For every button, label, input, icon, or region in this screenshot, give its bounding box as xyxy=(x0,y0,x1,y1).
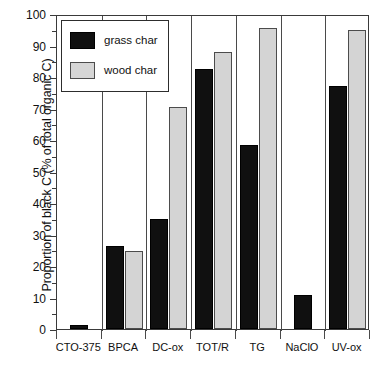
legend-swatch-grass-char xyxy=(70,32,95,49)
y-tick-label-40: 40 xyxy=(6,198,46,210)
legend-label-wood-char: wood char xyxy=(104,64,157,77)
y-tick-label-50: 50 xyxy=(6,167,46,179)
bar-chart-figure: Proportion of black C (% of total organi… xyxy=(0,0,380,367)
x-tick-UV-ox xyxy=(324,330,325,339)
bar-wood-char-BPCA xyxy=(125,251,143,329)
y-tick-label-100: 100 xyxy=(6,9,46,21)
bar-grass-char-TG xyxy=(240,145,258,329)
x-tick-label-TOT/R: TOT/R xyxy=(196,341,229,353)
y-tick-label-0: 0 xyxy=(6,324,46,336)
bar-grass-char-CTO-375 xyxy=(70,325,88,329)
y-tick-label-20: 20 xyxy=(6,261,46,273)
x-tick-NaClO xyxy=(280,330,281,339)
bar-wood-char-TOT/R xyxy=(214,52,232,329)
legend-label-grass-char: grass char xyxy=(104,34,158,47)
x-tick-label-CTO-375: CTO-375 xyxy=(56,341,101,353)
x-tick-label-UV-ox: UV-ox xyxy=(332,341,362,353)
chart-legend: grass char wood char xyxy=(61,20,169,92)
x-tick-TOT/R xyxy=(190,330,191,339)
y-tick-label-90: 90 xyxy=(6,41,46,53)
x-tick-label-TG: TG xyxy=(250,341,265,353)
bar-grass-char-TOT/R xyxy=(195,69,213,329)
group-separator-TOT/R xyxy=(191,16,192,331)
x-tick-label-BPCA: BPCA xyxy=(108,341,138,353)
y-tick-label-10: 10 xyxy=(6,293,46,305)
x-tick-label-NaClO: NaClO xyxy=(285,341,318,353)
group-separator-UV-ox xyxy=(325,16,326,331)
y-tick-label-70: 70 xyxy=(6,104,46,116)
x-tick-CTO-375 xyxy=(56,330,57,339)
legend-swatch-wood-char xyxy=(70,62,95,79)
x-tick-DC-ox xyxy=(145,330,146,339)
bar-wood-char-TG xyxy=(259,28,277,329)
y-tick-label-30: 30 xyxy=(6,230,46,242)
x-tick-BPCA xyxy=(101,330,102,339)
bar-grass-char-DC-ox xyxy=(150,219,168,329)
bar-grass-char-BPCA xyxy=(106,246,124,329)
group-separator-NaClO xyxy=(281,16,282,331)
bar-grass-char-NaClO xyxy=(294,295,312,329)
x-tick-end xyxy=(369,330,370,339)
x-tick-TG xyxy=(235,330,236,339)
bar-wood-char-UV-ox xyxy=(348,30,366,329)
x-tick-label-DC-ox: DC-ox xyxy=(152,341,183,353)
bar-grass-char-UV-ox xyxy=(329,86,347,329)
y-tick-label-60: 60 xyxy=(6,135,46,147)
group-separator-TG xyxy=(236,16,237,331)
bar-wood-char-DC-ox xyxy=(169,107,187,329)
y-tick-label-80: 80 xyxy=(6,72,46,84)
